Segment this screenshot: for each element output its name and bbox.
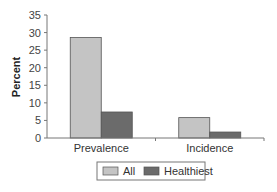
bar-chart: 05101520253035 PrevalenceIncidence Perce… [0,0,277,192]
bar [70,37,101,138]
y-tick-label: 35 [29,9,41,21]
y-axis: 05101520253035 [29,9,47,144]
y-tick-label: 0 [35,132,41,144]
y-axis-label: Percent [10,56,22,97]
x-category-label: Incidence [186,142,233,154]
y-tick-label: 30 [29,27,41,39]
x-axis: PrevalenceIncidence [47,138,264,154]
bar [179,118,210,138]
legend: AllHealthiest [97,162,213,180]
x-category-label: Prevalence [74,142,129,154]
y-tick-label: 25 [29,44,41,56]
y-tick-label: 5 [35,114,41,126]
y-tick-label: 20 [29,62,41,74]
bars [70,37,241,138]
y-tick-label: 10 [29,97,41,109]
bar [210,132,241,138]
legend-swatch [144,167,159,175]
legend-label: Healthiest [164,165,213,177]
y-tick-label: 15 [29,79,41,91]
legend-label: All [123,165,135,177]
legend-swatch [103,167,118,175]
bar [101,112,132,138]
